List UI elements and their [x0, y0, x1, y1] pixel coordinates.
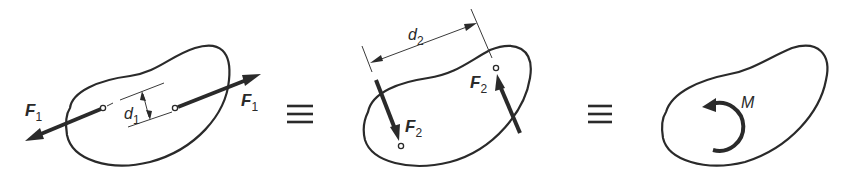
- application-point: [172, 105, 177, 110]
- rigid-body-outline-1: [66, 46, 229, 166]
- moment-arc-icon: [712, 103, 743, 151]
- dimension-extension-line: [471, 9, 492, 58]
- force-arrow-f1-right: [178, 79, 249, 107]
- arrowhead-icon: [702, 98, 716, 112]
- label-moment: M: [741, 94, 755, 111]
- dimension-extension-line: [362, 46, 372, 72]
- label-d2: d2: [408, 26, 424, 48]
- panel-1-force-couple-d1: F1 F1 d1: [25, 46, 261, 166]
- label-f1-right: F1: [241, 91, 258, 114]
- force-couple-diagram: F1 F1 d1 F2 F2 d2: [0, 0, 849, 185]
- arrowhead-icon: [495, 74, 505, 91]
- panel-2-force-couple-d2: F2 F2 d2: [362, 9, 531, 166]
- arrowhead-icon: [140, 91, 146, 101]
- arrowhead-icon: [370, 55, 383, 63]
- arrowhead-icon: [25, 128, 44, 141]
- arrowhead-icon: [464, 23, 477, 31]
- arrowhead-icon: [390, 124, 400, 141]
- application-point: [100, 105, 105, 110]
- equivalence-symbol-2: [588, 106, 612, 122]
- label-f2-left: F2: [405, 117, 422, 140]
- rigid-body-outline-2: [364, 46, 531, 166]
- arrowhead-icon: [146, 110, 152, 120]
- equivalence-symbol-1: [287, 106, 313, 122]
- label-d1: d1: [124, 105, 140, 127]
- application-point: [398, 143, 403, 148]
- force-arrow-f2-right: [500, 86, 520, 133]
- line-of-action-stub: [107, 103, 113, 106]
- dimension-line-d2: [376, 25, 472, 61]
- arrowhead-icon: [242, 74, 261, 86]
- label-f2-right: F2: [470, 73, 487, 96]
- application-point: [493, 65, 498, 70]
- panel-3-moment: M: [662, 46, 827, 166]
- label-f1-left: F1: [25, 101, 42, 124]
